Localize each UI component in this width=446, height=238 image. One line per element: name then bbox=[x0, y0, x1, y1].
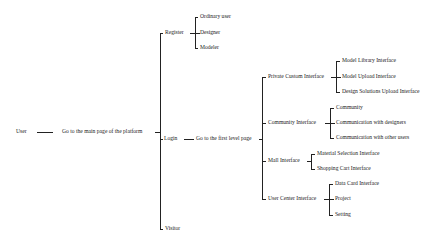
node-user-center-interface: User Center Interface bbox=[268, 196, 316, 202]
bracket-register bbox=[195, 17, 196, 48]
node-design-solutions-upload-interface: Design Solutions Upload Interface bbox=[342, 89, 420, 95]
connector-line bbox=[195, 17, 198, 18]
connector-line bbox=[329, 184, 333, 185]
node-mall-interface: Mall Interface bbox=[268, 158, 300, 164]
connector-line bbox=[311, 154, 315, 155]
connector-line bbox=[195, 48, 198, 49]
node-register: Register bbox=[165, 30, 184, 36]
node-setting: Setting bbox=[335, 212, 351, 218]
bracket-private bbox=[336, 61, 337, 92]
node-material-selection-interface: Material Selection Interface bbox=[317, 151, 379, 157]
bracket-interfaces bbox=[262, 77, 263, 199]
node-login: Login bbox=[164, 136, 177, 142]
connector-line bbox=[262, 161, 266, 162]
node-user: User bbox=[16, 129, 27, 135]
node-community-interface: Community Interface bbox=[268, 120, 316, 126]
connector-line bbox=[330, 108, 334, 109]
bracket-user-center bbox=[329, 184, 330, 215]
connector-line bbox=[336, 92, 340, 93]
node-designer: Designer bbox=[200, 30, 220, 36]
node-data-card-interface: Data Card Interface bbox=[335, 181, 379, 187]
node-shopping-cart-interface: Shopping Cart Interface bbox=[317, 166, 371, 172]
node-model-upload-interface: Model Upload Interface bbox=[342, 74, 396, 80]
connector-line bbox=[160, 33, 163, 34]
connector-line bbox=[262, 77, 266, 78]
node-project: Project bbox=[335, 196, 351, 202]
bracket-level1 bbox=[160, 33, 161, 229]
node-modeler: Modeler bbox=[200, 45, 219, 51]
connector-line bbox=[330, 138, 334, 139]
connector-line bbox=[184, 139, 194, 140]
node-ordinary-user: Ordinary user bbox=[200, 14, 231, 20]
node-main-page: Go to the main page of the platform bbox=[62, 129, 142, 135]
connector-line bbox=[262, 123, 266, 124]
connector-line bbox=[160, 139, 163, 140]
connector-line bbox=[262, 199, 266, 200]
bracket-community bbox=[330, 108, 331, 138]
connector-line bbox=[160, 229, 163, 230]
node-community: Community bbox=[336, 105, 363, 111]
bracket-mall bbox=[311, 154, 312, 169]
connector-line bbox=[37, 132, 53, 133]
connector-line bbox=[329, 215, 333, 216]
node-first-level-page: Go to the first level page bbox=[196, 136, 251, 142]
node-private-custom-interface: Private Custom Interface bbox=[268, 74, 324, 80]
node-communication-designers: Communication with designers bbox=[336, 120, 406, 126]
node-communication-other-users: Communication with other users bbox=[336, 135, 409, 141]
connector-line bbox=[311, 169, 315, 170]
node-model-library-interface: Model Library Interface bbox=[342, 58, 396, 64]
connector-line bbox=[336, 61, 340, 62]
node-visitor: Visitor bbox=[165, 226, 180, 232]
